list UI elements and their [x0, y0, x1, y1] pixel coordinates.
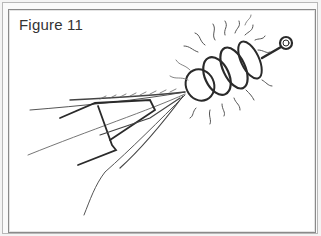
fly-illustration: [0, 0, 321, 236]
